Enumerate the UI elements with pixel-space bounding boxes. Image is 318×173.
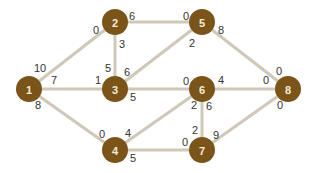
edge-weight-label: 2 [189, 37, 195, 49]
edge-weight-label: 5 [130, 91, 136, 103]
graph-node-8: 8 [275, 76, 301, 102]
edge-weight-label: 0 [182, 136, 188, 148]
node-label: 3 [112, 84, 118, 96]
graph-diagram: 100718035606250425080406290 12345678 [0, 0, 318, 173]
graph-node-3: 3 [102, 76, 128, 102]
edge-weight-label: 5 [105, 62, 111, 74]
edge-weight-label: 0 [183, 10, 189, 22]
graph-node-2: 2 [102, 9, 128, 35]
node-label: 7 [199, 145, 205, 157]
edge-weight-label: 1 [95, 74, 101, 86]
edge-weight-label: 0 [99, 128, 105, 140]
edge-1-2 [29, 22, 115, 89]
graph-node-6: 6 [189, 76, 215, 102]
node-label: 5 [199, 17, 205, 29]
edge-weight-label: 3 [119, 38, 125, 50]
edge-weight-label: 9 [213, 129, 219, 141]
edge-weight-label: 4 [125, 127, 131, 139]
edge-weight-label: 0 [276, 65, 282, 77]
node-label: 8 [285, 84, 291, 96]
edge-weight-label: 4 [218, 74, 224, 86]
edge-weight-label: 2 [192, 124, 198, 136]
edge-weight-label: 6 [124, 66, 130, 78]
edge-weight-label: 10 [34, 62, 46, 74]
graph-node-7: 7 [189, 137, 215, 163]
node-label: 6 [199, 84, 205, 96]
edge-weight-label: 2 [191, 99, 197, 111]
edge-1-4 [29, 89, 115, 150]
node-label: 4 [112, 145, 119, 157]
graph-node-1: 1 [16, 76, 42, 102]
node-label: 2 [112, 17, 118, 29]
edge-labels-layer: 100718035606250425080406290 [34, 10, 283, 164]
node-label: 1 [26, 84, 32, 96]
edges-layer [29, 22, 288, 150]
graph-node-4: 4 [102, 137, 128, 163]
edge-weight-label: 0 [183, 75, 189, 87]
edge-weight-label: 5 [130, 152, 136, 164]
edge-weight-label: 0 [93, 24, 99, 36]
edge-weight-label: 0 [263, 74, 269, 86]
edge-weight-label: 0 [277, 99, 283, 111]
edge-4-6 [115, 89, 202, 150]
edge-weight-label: 8 [218, 24, 224, 36]
edge-weight-label: 6 [206, 100, 212, 112]
edge-weight-label: 7 [51, 74, 57, 86]
graph-node-5: 5 [189, 9, 215, 35]
edge-weight-label: 6 [129, 10, 135, 22]
edge-5-8 [202, 22, 288, 89]
nodes-layer: 12345678 [16, 9, 301, 163]
edge-weight-label: 8 [35, 99, 41, 111]
